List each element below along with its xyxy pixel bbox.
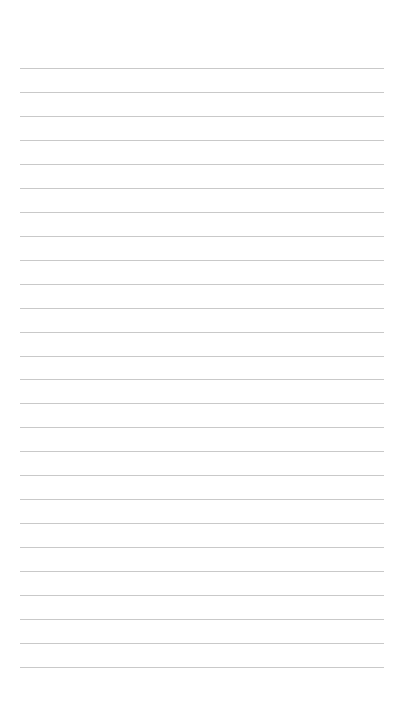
ruled-line: [20, 451, 384, 452]
ruled-line: [20, 667, 384, 668]
ruled-line: [20, 260, 384, 261]
ruled-line: [20, 332, 384, 333]
ruled-line: [20, 140, 384, 141]
ruled-line: [20, 308, 384, 309]
ruled-line: [20, 68, 384, 69]
ruled-line: [20, 164, 384, 165]
ruled-line: [20, 212, 384, 213]
ruled-line: [20, 643, 384, 644]
ruled-line: [20, 356, 384, 357]
ruled-line: [20, 595, 384, 596]
ruled-line: [20, 188, 384, 189]
lined-paper-page: [0, 0, 401, 706]
ruled-line: [20, 284, 384, 285]
ruled-line: [20, 499, 384, 500]
ruled-line: [20, 619, 384, 620]
ruled-line: [20, 236, 384, 237]
ruled-line: [20, 547, 384, 548]
ruled-line: [20, 379, 384, 380]
ruled-line: [20, 571, 384, 572]
ruled-line: [20, 403, 384, 404]
ruled-line: [20, 523, 384, 524]
ruled-line: [20, 92, 384, 93]
ruled-line: [20, 475, 384, 476]
ruled-line: [20, 116, 384, 117]
ruled-line: [20, 427, 384, 428]
